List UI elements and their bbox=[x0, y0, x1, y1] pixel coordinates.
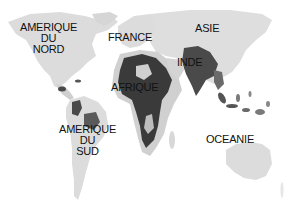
new-zealand-shape bbox=[281, 182, 284, 198]
label-south-america: AMERIQUE DU SUD bbox=[59, 124, 116, 157]
label-france: FRANCE bbox=[108, 32, 152, 43]
label-line: OCEANIE bbox=[206, 134, 254, 145]
madagascar-shape bbox=[169, 131, 175, 149]
label-asia: ASIE bbox=[195, 23, 219, 34]
australia-shape bbox=[226, 142, 272, 180]
label-line: ASIE bbox=[195, 23, 219, 34]
central-america-dark bbox=[58, 87, 66, 92]
label-line: NORD bbox=[20, 44, 77, 55]
label-line: INDE bbox=[177, 57, 202, 68]
label-oceania: OCEANIE bbox=[206, 134, 254, 145]
label-africa: AFRIQUE bbox=[111, 82, 159, 93]
caribbean-dark bbox=[75, 80, 81, 83]
world-map: AMERIQUE DU NORD FRANCE ASIE INDE AFRIQU… bbox=[0, 0, 290, 212]
label-line: SUD bbox=[59, 146, 116, 157]
label-north-america: AMERIQUE DU NORD bbox=[20, 22, 77, 55]
label-line: AFRIQUE bbox=[111, 82, 159, 93]
label-india: INDE bbox=[177, 57, 202, 68]
label-line: FRANCE bbox=[108, 32, 152, 43]
central-america-shape bbox=[56, 84, 74, 100]
indonesia-islands bbox=[216, 91, 270, 115]
